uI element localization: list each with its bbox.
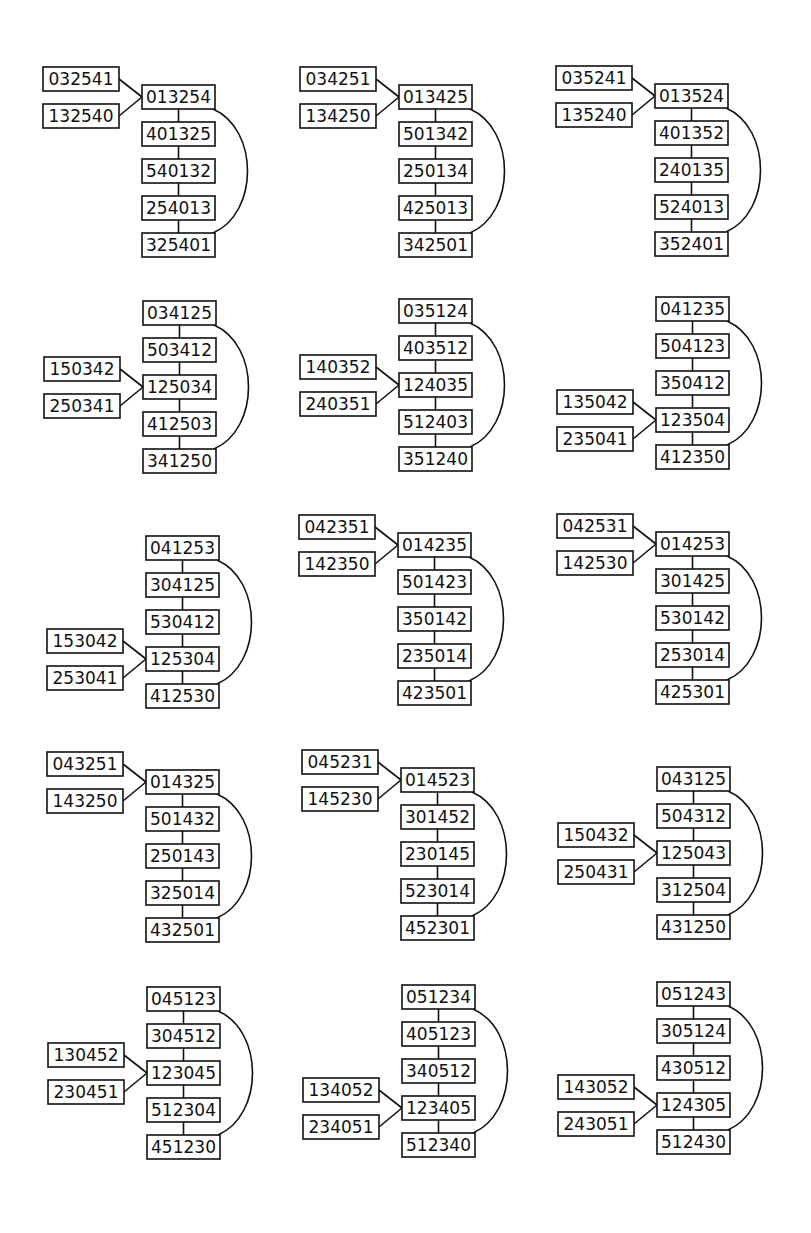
cycle-arc: [218, 1011, 253, 1135]
chain-node: 305124: [657, 1019, 730, 1043]
chain-node: 035124: [399, 299, 472, 323]
node-label: 530142: [660, 608, 725, 628]
chain-node: 254013: [142, 196, 215, 220]
side-edge: [120, 387, 143, 406]
side-edge: [375, 545, 398, 564]
side-edge: [119, 97, 142, 116]
chain-node: 501432: [146, 807, 219, 831]
chain-node: 250143: [146, 844, 219, 868]
side-node: 130452: [48, 1043, 124, 1067]
permutation-diagram: 1304522304510451233045121230455123044512…: [48, 987, 253, 1159]
node-label: 124305: [661, 1095, 726, 1115]
node-label: 143052: [564, 1077, 629, 1097]
side-edge: [376, 385, 399, 404]
chain-node: 051234: [402, 985, 475, 1009]
node-label: 123045: [151, 1063, 216, 1083]
cycle-arc: [214, 325, 249, 449]
chain-node: 405123: [402, 1022, 475, 1046]
cycle-arc: [472, 792, 507, 916]
chain-node: 235014: [398, 644, 471, 668]
node-label: 235041: [563, 429, 628, 449]
node-label: 523014: [405, 881, 470, 901]
chain-node: 432501: [146, 918, 219, 942]
side-node: 142350: [299, 552, 375, 576]
side-edge: [634, 835, 657, 853]
node-label: 340512: [406, 1061, 471, 1081]
permutation-diagram: 0432511432500143255014322501433250144325…: [47, 752, 252, 942]
node-label: 043125: [661, 769, 726, 789]
chain-node: 412503: [143, 412, 216, 436]
side-edge: [634, 853, 657, 872]
permutation-diagram: 1504322504310431255043121250433125044312…: [558, 767, 763, 939]
chain-node: 301425: [656, 569, 729, 593]
side-node: 135042: [557, 390, 633, 414]
node-label: 145230: [308, 789, 373, 809]
node-label: 530412: [150, 612, 215, 632]
node-label: 234051: [309, 1117, 374, 1137]
chain-node: 524013: [655, 195, 728, 219]
node-label: 301452: [405, 807, 470, 827]
side-edge: [379, 1108, 402, 1127]
node-label: 350412: [660, 373, 725, 393]
chain-node: 041253: [146, 536, 219, 560]
side-node: 243051: [558, 1112, 634, 1136]
side-edge: [634, 1105, 657, 1124]
side-edge: [375, 527, 398, 545]
node-label: 140352: [306, 357, 371, 377]
chain-node: 123405: [402, 1096, 475, 1120]
side-edge: [120, 369, 143, 387]
chain-node: 401352: [655, 121, 728, 145]
chain-node: 512403: [399, 410, 472, 434]
side-node: 042531: [557, 514, 633, 538]
node-label: 250431: [564, 862, 629, 882]
chain-node: 342501: [399, 233, 472, 257]
side-edge: [632, 78, 655, 96]
chain-node: 013524: [655, 84, 728, 108]
chain-node: 013254: [142, 85, 215, 109]
side-edge: [376, 79, 399, 97]
node-label: 351240: [403, 449, 468, 469]
node-label: 412530: [150, 686, 215, 706]
node-label: 125034: [147, 377, 212, 397]
chain-node: 041235: [656, 297, 729, 321]
side-edge: [633, 544, 656, 563]
cycle-arc: [726, 108, 761, 232]
node-label: 451230: [151, 1137, 216, 1157]
node-label: 412350: [660, 447, 725, 467]
permutation-diagram: 1503422503410341255034121250344125033412…: [44, 301, 249, 473]
chain-node: 512340: [402, 1133, 475, 1157]
side-node: 145230: [302, 787, 378, 811]
chain-node: 350142: [398, 607, 471, 631]
chain-node: 325014: [146, 881, 219, 905]
node-label: 042351: [305, 517, 370, 537]
side-node: 032541: [43, 67, 119, 91]
side-edge: [378, 780, 401, 799]
node-label: 124035: [403, 375, 468, 395]
side-edge: [124, 1073, 147, 1092]
node-label: 045231: [308, 752, 373, 772]
node-label: 250341: [50, 396, 115, 416]
cycle-arc: [213, 109, 248, 233]
node-label: 423501: [402, 683, 467, 703]
side-node: 134052: [303, 1078, 379, 1102]
chain-node: 034125: [143, 301, 216, 325]
permutation-diagram: 1430522430510512433051244305121243055124…: [558, 982, 763, 1154]
chain-node: 540132: [142, 159, 215, 183]
chain-node: 340512: [402, 1059, 475, 1083]
side-node: 250431: [558, 860, 634, 884]
node-label: 312504: [661, 880, 726, 900]
node-label: 304512: [151, 1026, 216, 1046]
chain-node: 512430: [657, 1130, 730, 1154]
side-node: 153042: [47, 629, 123, 653]
side-node: 150432: [558, 823, 634, 847]
node-label: 305124: [661, 1021, 726, 1041]
node-label: 235014: [402, 646, 467, 666]
side-node: 250341: [44, 394, 120, 418]
node-label: 042531: [563, 516, 628, 536]
node-label: 134250: [306, 106, 371, 126]
cycle-arc: [728, 791, 763, 915]
node-label: 512403: [403, 412, 468, 432]
cycle-arc: [473, 1009, 508, 1133]
node-label: 051234: [406, 987, 471, 1007]
side-edge: [376, 97, 399, 116]
